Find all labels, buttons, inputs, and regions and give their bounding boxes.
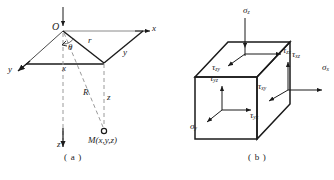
figure-vector-graphics	[0, 0, 334, 180]
sigma-y-subscript: y	[194, 125, 196, 131]
panel-b-caption: ( b )	[248, 152, 267, 162]
tau-zx-label: τzx	[283, 46, 291, 56]
sigma-x-label: σx	[322, 63, 329, 73]
y-edge-label: y	[123, 48, 127, 57]
point-M-label: M(x,y,z)	[88, 136, 117, 145]
panel-a-graphics	[18, 7, 150, 147]
y-axis-label: y	[8, 65, 12, 74]
tau-xy-arrow	[269, 90, 288, 101]
slant-R-label: R	[83, 88, 89, 97]
sigma-y-label: σy	[190, 122, 197, 132]
cube-front-face	[195, 77, 257, 139]
tau-yz-subscript: yz	[213, 77, 218, 83]
tau-zy-subscript: zy	[215, 66, 220, 72]
z-axis-label: z	[57, 140, 61, 149]
figure-container: O x y z θ r x y R z M(x,y,z) ( a ) σz τz…	[0, 0, 334, 180]
panel-a-caption: ( a )	[64, 152, 82, 162]
point-marker-M	[101, 128, 106, 133]
z-height-label: z	[107, 93, 111, 102]
cube-top-face	[195, 42, 290, 77]
tau-yx-subscript: yx	[253, 114, 258, 120]
x-axis-label: x	[152, 24, 156, 33]
y-axis-line	[24, 31, 63, 66]
sigma-z-label: σz	[243, 6, 250, 16]
tau-zy-arrow	[228, 54, 245, 66]
tau-xz-label: τxz	[292, 50, 300, 60]
tau-zy-label: τzy	[212, 63, 220, 73]
sigma-x-subscript: x	[326, 66, 328, 72]
tau-xy-label: τxy	[258, 82, 266, 92]
sigma-z-subscript: z	[247, 9, 249, 15]
x-edge-label: x	[62, 64, 66, 73]
tau-xy-subscript: xy	[261, 85, 266, 91]
origin-label: O	[52, 22, 59, 32]
tau-yz-label: τyz	[210, 74, 218, 84]
angle-theta-label: θ	[68, 43, 72, 52]
tau-zx-subscript: zx	[286, 49, 291, 55]
tau-yx-label: τyx	[250, 111, 258, 121]
tau-xz-subscript: xz	[295, 53, 300, 59]
sigma-y-arrow	[207, 110, 222, 122]
y-axis-arrow	[18, 61, 30, 71]
radial-r-label: r	[88, 36, 92, 45]
